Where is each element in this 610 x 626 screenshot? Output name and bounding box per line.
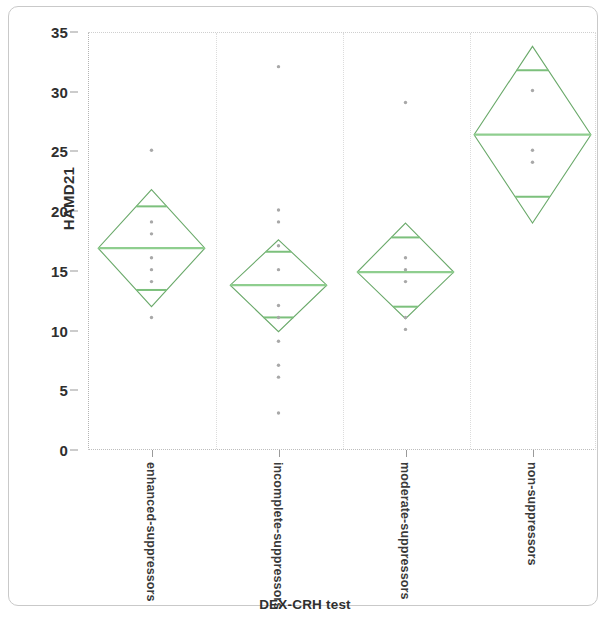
y-tick-label: 10 (51, 322, 68, 339)
y-tick-label: 0 (59, 442, 68, 459)
plot-area (88, 32, 596, 450)
means-diamond-chart: 05101520253035 HAMD21 enhanced-suppresso… (0, 0, 610, 626)
y-axis-title: HAMD21 (60, 129, 77, 269)
group-separator (216, 33, 217, 449)
y-tick-mark (70, 390, 78, 391)
y-tick-label: 5 (59, 382, 68, 399)
y-tick-label: 30 (51, 83, 68, 100)
x-tick-label-enhanced-suppressors[interactable]: enhanced-suppressors (144, 462, 158, 612)
y-tick-mark (70, 91, 78, 92)
y-tick-mark (70, 270, 78, 271)
x-tick-label-non-suppressors[interactable]: non-suppressors (525, 462, 539, 612)
group-separator (343, 33, 344, 449)
x-tick-mark (533, 450, 534, 457)
y-tick-mark (70, 450, 78, 451)
x-tick-label-moderate-suppressors[interactable]: moderate-suppressors (398, 462, 412, 612)
y-tick-label: 35 (51, 24, 68, 41)
x-tick-mark (152, 450, 153, 457)
y-tick-mark (70, 32, 78, 33)
group-separator (470, 33, 471, 449)
x-tick-mark (279, 450, 280, 457)
y-tick-mark (70, 330, 78, 331)
x-tick-label-incomplete-suppressors[interactable]: incomplete-suppressors (271, 462, 285, 612)
x-axis-title: DEX-CRH test (0, 597, 610, 612)
x-tick-mark (406, 450, 407, 457)
